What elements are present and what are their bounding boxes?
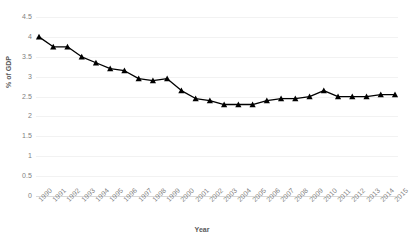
x-axis-title: Year [0,226,404,233]
y-tick-label: 4 [28,33,32,40]
plot-area [36,17,398,196]
data-point-marker [321,87,327,93]
y-tick-label: 0.5 [22,172,32,179]
y-axis-tick-labels: 00.511.522.533.544.5 [0,17,32,196]
y-tick-label: 3 [28,73,32,80]
series-line [39,37,395,105]
y-tick-label: 4.5 [22,13,32,20]
y-tick-label: 3.5 [22,53,32,60]
y-tick-label: 2.5 [22,93,32,100]
y-tick-label: 2 [28,112,32,119]
y-tick-label: 0 [28,192,32,199]
data-point-marker [36,34,42,40]
y-tick-label: 1 [28,152,32,159]
data-series-line [36,17,398,196]
y-tick-label: 1.5 [22,132,32,139]
